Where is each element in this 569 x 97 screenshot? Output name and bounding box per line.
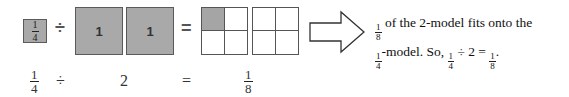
result-grid-1 (201, 7, 248, 55)
text: -model. So, (382, 44, 445, 59)
unit-model-1: 1 (75, 7, 123, 55)
denominator: 4 (32, 32, 39, 43)
numerator: 1 (244, 68, 253, 82)
explanation-line-2: 1 4 -model. So, 1 4 ÷ 2 = 1 8 . (375, 42, 565, 71)
grid-cell-shaded (202, 8, 225, 31)
denominator: 8 (244, 82, 253, 95)
numerator: 1 (30, 68, 39, 82)
numerator: 1 (32, 20, 39, 32)
unit-model-2: 1 (126, 7, 174, 55)
bottom-equals-symbol: = (182, 72, 191, 90)
one-quarter-model: 1 4 (23, 19, 47, 43)
fraction: 1 8 (244, 68, 253, 95)
equals-symbol: = (181, 18, 192, 39)
fraction: 1 4 (32, 20, 39, 43)
grid-cell (253, 8, 276, 31)
bottom-dividend: 1 4 (30, 68, 39, 95)
result-grid-2 (252, 7, 299, 55)
fraction: 1 4 (448, 52, 455, 71)
grid-cell (276, 8, 299, 31)
divide-symbol: ÷ (55, 18, 65, 39)
bottom-divisor: 2 (120, 72, 128, 90)
unit-label: 1 (146, 24, 153, 39)
denominator: 4 (30, 82, 39, 95)
denominator: 8 (375, 33, 382, 42)
grid-cell (225, 8, 248, 31)
text: . (496, 44, 499, 59)
text: ÷ 2 = (457, 44, 486, 59)
denominator: 8 (489, 62, 496, 71)
right-arrow-icon (308, 10, 368, 55)
fraction: 1 4 (30, 68, 39, 95)
denominator: 4 (375, 62, 382, 71)
grid-cell (202, 31, 225, 54)
explanation-line-1: 1 8 of the 2-model fits onto the (375, 13, 565, 42)
bottom-result: 1 8 (244, 68, 253, 95)
grid-cell (225, 31, 248, 54)
denominator: 4 (448, 62, 455, 71)
explanation-text: 1 8 of the 2-model fits onto the 1 4 -mo… (375, 13, 565, 71)
fraction: 1 8 (375, 23, 382, 42)
bottom-divide-symbol: ÷ (56, 72, 65, 90)
grid-cell (276, 31, 299, 54)
unit-label: 1 (95, 24, 102, 39)
text: of the 2-model fits onto the (385, 15, 532, 30)
grid-cell (253, 31, 276, 54)
